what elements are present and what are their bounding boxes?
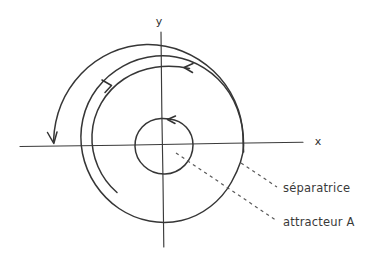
separatrice-label: séparatrice [283,181,350,195]
x-axis-line [20,142,303,146]
axes-group [20,32,303,247]
x-axis-label: x [315,135,322,148]
attracteur-curve [135,118,193,174]
arrowhead-outer-left-icon [48,132,58,144]
arrowheads-group [48,64,194,144]
leader-lines-group [176,153,277,221]
y-axis-line [161,32,164,247]
attracteur-label: attracteur A [283,215,355,229]
phase-portrait-diagram: x y séparatrice attracteur A [0,0,373,264]
leader-line-separatrice [241,163,277,187]
spiral-trajectory-curve [54,44,244,152]
labels-group: x y séparatrice attracteur A [156,15,355,229]
leader-line-attracteur [176,153,277,221]
figure-root: x y séparatrice attracteur A [0,0,373,264]
y-axis-label: y [156,15,163,28]
attracteur-path [135,118,193,174]
spiral-trajectory-path [54,44,244,152]
